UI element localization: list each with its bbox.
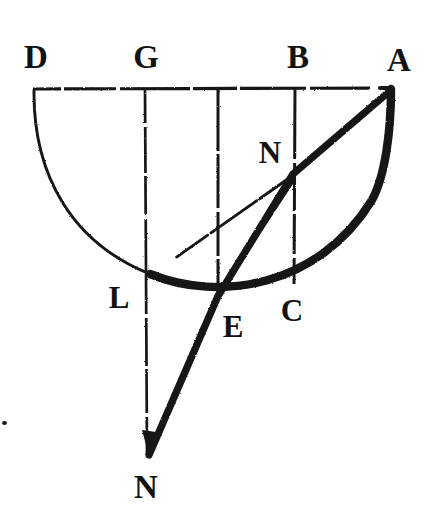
geometric-figure: D G B A N L E C N [0, 0, 445, 532]
figure-canvas [0, 0, 445, 532]
point-label-G: G [133, 41, 159, 74]
arc-D-to-L [34, 90, 150, 274]
print-speck [2, 421, 7, 425]
point-label-B: B [287, 41, 309, 74]
point-label-D: D [24, 41, 48, 74]
point-label-A: A [387, 44, 411, 77]
point-label-N-upper: N [259, 137, 281, 168]
chord-DA-line [33, 88, 391, 89]
point-label-C: C [281, 295, 303, 326]
ray-N-upper-to-L [151, 176, 292, 275]
point-label-N-lower: N [134, 471, 158, 504]
ordinate-B-to-C [294, 89, 295, 284]
point-label-L: L [109, 282, 130, 313]
point-label-E: E [223, 311, 244, 342]
